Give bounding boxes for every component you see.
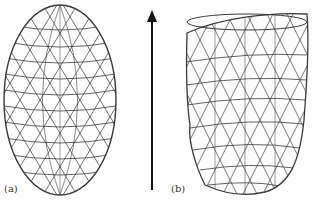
ellipsoid-mesh [0, 0, 200, 200]
deformed-mesh [100, 0, 314, 200]
panel-label-a: (a) [4, 184, 18, 194]
arrow-up-icon [147, 10, 157, 190]
panel-label-b: (b) [171, 184, 185, 194]
figure-canvas [0, 0, 314, 200]
